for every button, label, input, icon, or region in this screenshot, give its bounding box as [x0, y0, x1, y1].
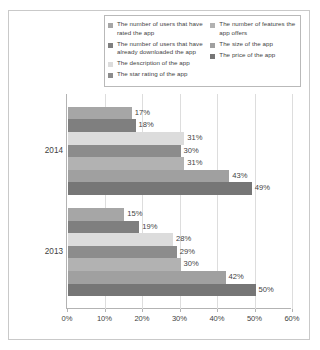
bar-star-rating-2014	[68, 145, 181, 158]
bar-value-label: 17%	[135, 107, 150, 120]
x-axis-label: 60%	[279, 314, 305, 323]
legend-swatch-icon	[210, 54, 215, 59]
legend-item[interactable]: The description of the app	[108, 59, 208, 68]
x-axis-label: 20%	[129, 314, 155, 323]
bar-value-label: 28%	[176, 233, 191, 246]
legend-item[interactable]: The size of the app	[210, 40, 300, 49]
x-axis-label: 50%	[242, 314, 268, 323]
x-axis-tick	[292, 309, 293, 312]
bar-users-downloaded-2013	[68, 221, 139, 234]
bar-users-downloaded-2014	[68, 119, 136, 132]
x-axis-label: 40%	[204, 314, 230, 323]
legend-item-label: The number of users that have already do…	[117, 40, 208, 57]
legend-column-left: The number of users that have rated the …	[105, 16, 208, 86]
bar-value-label: 43%	[232, 170, 247, 183]
chart-frame: The number of users that have rated the …	[8, 10, 310, 340]
bar-value-label: 18%	[139, 119, 154, 132]
bar-value-label: 29%	[180, 246, 195, 259]
bar-size-2013	[68, 271, 226, 284]
legend-column-right: The number of features the app offersThe…	[208, 16, 300, 86]
bar-value-label: 42%	[229, 271, 244, 284]
legend-swatch-icon	[108, 43, 113, 48]
bar-size-2014	[68, 170, 229, 183]
gridline	[255, 94, 256, 309]
legend-swatch-icon	[210, 43, 215, 48]
legend-item-label: The number of users that have rated the …	[117, 20, 208, 37]
y-axis-group-label: 2014	[23, 146, 63, 155]
legend-swatch-icon	[108, 73, 113, 78]
legend-item-label: The size of the app	[219, 40, 273, 49]
x-axis-tick	[67, 309, 68, 312]
bar-value-label: 19%	[142, 221, 157, 234]
bar-value-label: 30%	[184, 145, 199, 158]
bar-value-label: 31%	[187, 157, 202, 170]
bar-price-2014	[68, 182, 252, 195]
bar-value-label: 50%	[259, 284, 274, 297]
legend-swatch-icon	[108, 62, 113, 67]
gridline	[292, 94, 293, 309]
plot-area: 0%10%20%30%40%50%60%201417%18%31%30%31%4…	[58, 94, 291, 309]
legend-item[interactable]: The number of users that have rated the …	[108, 20, 208, 37]
x-axis-label: 10%	[92, 314, 118, 323]
legend-item[interactable]: The number of features the app offers	[210, 20, 300, 37]
bar-value-label: 49%	[255, 182, 270, 195]
bar-price-2013	[68, 284, 256, 297]
bar-value-label: 30%	[184, 258, 199, 271]
legend-swatch-icon	[108, 23, 113, 28]
bar-description-2013	[68, 233, 173, 246]
legend-item-label: The star rating of the app	[117, 70, 187, 79]
bar-description-2014	[68, 132, 184, 145]
bar-users-rated-2014	[68, 107, 132, 120]
x-axis-label: 0%	[54, 314, 80, 323]
bar-star-rating-2013	[68, 246, 177, 259]
bar-value-label: 15%	[127, 208, 142, 221]
legend-item-label: The number of features the app offers	[219, 20, 300, 37]
x-axis-tick	[255, 309, 256, 312]
bar-users-rated-2013	[68, 208, 124, 221]
chart-legend: The number of users that have rated the …	[104, 15, 301, 87]
legend-item[interactable]: The price of the app	[210, 51, 300, 60]
x-axis-label: 30%	[167, 314, 193, 323]
x-axis-tick	[180, 309, 181, 312]
legend-item-label: The price of the app	[219, 51, 275, 60]
legend-item-label: The description of the app	[117, 59, 190, 68]
plot-box: 0%10%20%30%40%50%60%201417%18%31%30%31%4…	[66, 94, 291, 309]
legend-item[interactable]: The star rating of the app	[108, 70, 208, 79]
x-axis-tick	[105, 309, 106, 312]
x-axis-tick	[217, 309, 218, 312]
bar-value-label: 31%	[187, 132, 202, 145]
legend-item[interactable]: The number of users that have already do…	[108, 40, 208, 57]
bar-features-2014	[68, 157, 184, 170]
legend-swatch-icon	[210, 23, 215, 28]
x-axis-tick	[142, 309, 143, 312]
bar-features-2013	[68, 258, 181, 271]
y-axis-group-label: 2013	[23, 247, 63, 256]
